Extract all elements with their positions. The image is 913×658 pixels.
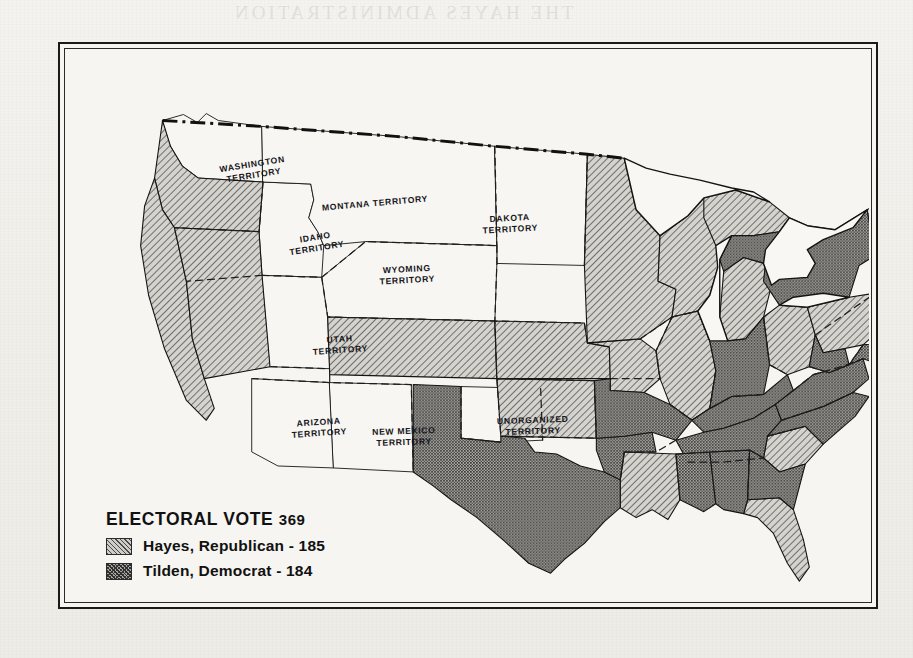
legend-label-hayes: Hayes, Republican - 185: [143, 537, 325, 555]
map-canvas: WASHINGTON TERRITORY MONTANA TERRITORY D…: [67, 51, 869, 600]
map-frame-border: WASHINGTON TERRITORY MONTANA TERRITORY D…: [58, 42, 878, 609]
legend-item-tilden: Tilden, Democrat - 184: [106, 562, 325, 580]
legend-swatch-hayes-icon: [106, 538, 132, 555]
legend-swatch-tilden-icon: [106, 563, 132, 580]
legend-total-votes: 369: [279, 511, 306, 528]
legend-title-text: ELECTORAL VOTE: [106, 509, 273, 529]
legend-title: ELECTORAL VOTE 369: [106, 509, 325, 530]
legend-label-tilden: Tilden, Democrat - 184: [143, 562, 313, 580]
legend-item-hayes: Hayes, Republican - 185: [106, 537, 325, 555]
bleed-through-page-title: THE HAYES ADMINISTRATION: [232, 2, 574, 24]
map-legend: ELECTORAL VOTE 369 Hayes, Republican - 1…: [106, 509, 325, 580]
